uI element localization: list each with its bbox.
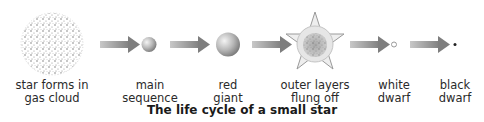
white-dwarf-icon bbox=[392, 42, 397, 47]
red-giant-icon bbox=[216, 33, 240, 57]
planetary-nebula-icon bbox=[286, 12, 344, 69]
main-sequence-star-icon bbox=[142, 37, 157, 52]
gas-cloud-icon bbox=[21, 13, 83, 75]
stage-label-outer-layers: outer layers flung off bbox=[280, 79, 349, 105]
arrow-icon bbox=[170, 36, 210, 53]
label-line: gas cloud bbox=[16, 92, 89, 105]
label-line: dwarf bbox=[439, 92, 472, 105]
arrow-icon bbox=[100, 36, 140, 53]
stage-label-gas-cloud: star forms in gas cloud bbox=[16, 79, 89, 105]
stage-label-white-dwarf: white dwarf bbox=[378, 79, 411, 105]
arrow-icon bbox=[252, 36, 292, 53]
stage-label-red-giant: red giant bbox=[213, 79, 242, 105]
diagram-title: The life cycle of a small star bbox=[147, 103, 337, 117]
arrow-icon bbox=[410, 36, 450, 53]
label-line: dwarf bbox=[378, 92, 411, 105]
stage-label-main-sequence: main sequence bbox=[122, 79, 177, 105]
black-dwarf-icon bbox=[454, 43, 457, 46]
arrow-icon bbox=[350, 36, 390, 53]
stage-label-black-dwarf: black dwarf bbox=[439, 79, 472, 105]
